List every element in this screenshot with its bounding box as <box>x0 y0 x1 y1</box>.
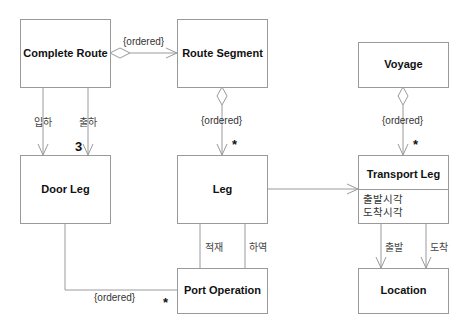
role-label: 도착 <box>430 239 448 254</box>
role-label: 적재 <box>205 239 223 254</box>
class-name: Transport Leg <box>359 168 448 180</box>
attribute-arrival-time: 도착시각 <box>363 206 444 219</box>
class-name: Location <box>359 284 448 296</box>
role-label: 출하 <box>79 114 97 129</box>
role-label: 입하 <box>34 114 52 129</box>
class-complete-route[interactable]: Complete Route <box>20 19 111 88</box>
constraint-label: {ordered} <box>94 292 135 303</box>
role-label: 출발 <box>385 239 403 254</box>
class-name: Voyage <box>359 58 448 70</box>
multiplicity-label: * <box>232 137 237 152</box>
class-attributes: 출발시각 도착시각 <box>359 189 448 222</box>
class-leg[interactable]: Leg <box>177 155 268 224</box>
class-transport-leg[interactable]: Transport Leg 출발시각 도착시각 <box>358 155 449 224</box>
constraint-label: {ordered} <box>382 115 423 126</box>
class-name: Port Operation <box>178 284 267 296</box>
multiplicity-label: * <box>163 295 168 310</box>
class-name: Complete Route <box>21 47 110 59</box>
class-location[interactable]: Location <box>358 268 449 314</box>
class-route-segment[interactable]: Route Segment <box>177 19 268 88</box>
role-label: 하역 <box>249 239 267 254</box>
constraint-label: {ordered} <box>123 36 164 47</box>
uml-class-diagram: Complete Route Route Segment Voyage Door… <box>0 0 468 332</box>
multiplicity-label: * <box>413 137 418 152</box>
multiplicity-label: 3 <box>75 139 82 154</box>
class-port-operation[interactable]: Port Operation <box>177 268 268 314</box>
class-name: Door Leg <box>21 183 110 195</box>
constraint-label: {ordered} <box>201 115 242 126</box>
class-voyage[interactable]: Voyage <box>358 42 449 88</box>
attribute-departure-time: 출발시각 <box>363 193 444 206</box>
class-name: Leg <box>178 183 267 195</box>
class-name: Route Segment <box>178 47 267 59</box>
class-door-leg[interactable]: Door Leg <box>20 155 111 224</box>
